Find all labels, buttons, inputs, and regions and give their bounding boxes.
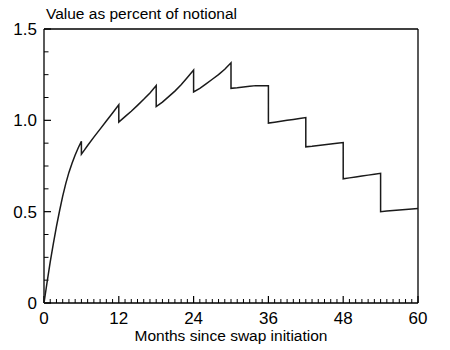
chart-svg: Value as percent of notional 00.51.01.5 … xyxy=(0,0,450,350)
x-tick-label: 0 xyxy=(39,309,48,328)
y-tick-label: 0 xyxy=(28,294,37,313)
swap-value-line xyxy=(44,63,418,303)
x-tick-label: 12 xyxy=(109,309,128,328)
x-axis-title: Months since swap initiation xyxy=(135,327,328,344)
x-tick-label: 48 xyxy=(334,309,353,328)
x-axis-tick-labels: 01224364860 xyxy=(39,309,427,328)
x-tick-label: 24 xyxy=(184,309,203,328)
chart-title: Value as percent of notional xyxy=(46,5,237,22)
x-tick-label: 60 xyxy=(409,309,428,328)
chart-figure: Value as percent of notional 00.51.01.5 … xyxy=(0,0,450,350)
y-axis-tick-labels: 00.51.01.5 xyxy=(13,20,37,313)
y-tick-label: 0.5 xyxy=(13,203,37,222)
x-axis-ticks xyxy=(44,296,418,303)
x-tick-label: 36 xyxy=(259,309,278,328)
y-tick-label: 1.0 xyxy=(13,111,37,130)
y-tick-label: 1.5 xyxy=(13,20,37,39)
